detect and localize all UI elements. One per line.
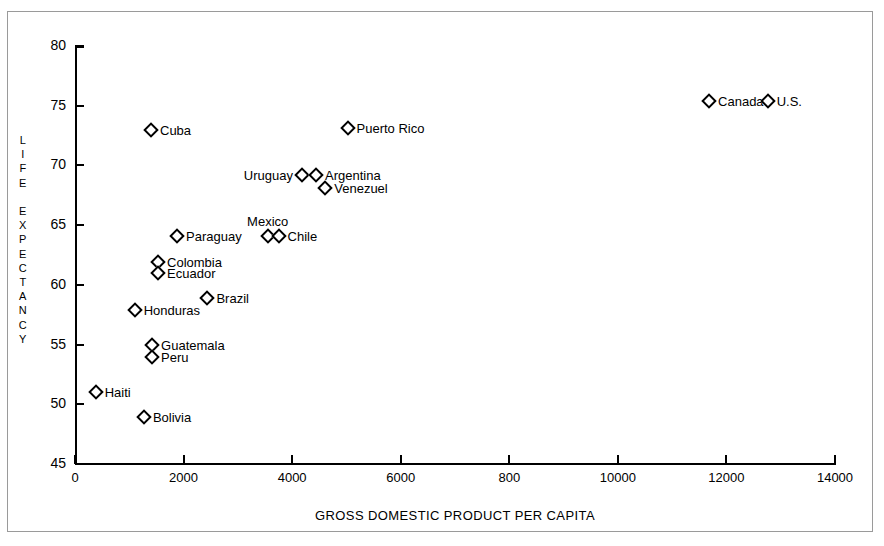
y-axis-title-letter: E [14,247,32,261]
y-axis-tick-label: 45 [26,455,66,471]
data-point-label: Puerto Rico [357,121,425,136]
y-axis-title-letter: F [14,161,32,175]
data-point-label: U.S. [777,93,802,108]
x-axis-tick-label: 14000 [800,470,870,485]
data-point-label: Mexico [247,213,288,228]
y-axis-tick-label: 65 [26,216,66,232]
x-axis-tick-label: 0 [40,470,110,485]
data-point-label: Haiti [105,385,131,400]
data-point-label: Venezuel [334,181,388,196]
data-point-label: Peru [161,349,188,364]
y-axis-title-letter: T [14,275,32,289]
y-axis-tick-label: 75 [26,97,66,113]
y-axis-title-letter: N [14,303,32,317]
x-axis-tick-label: 800 [474,470,544,485]
data-point-label: Cuba [160,122,191,137]
y-axis-title-letter: E [14,176,32,190]
x-axis-title: GROSS DOMESTIC PRODUCT PER CAPITA [75,508,835,523]
y-axis-title: LIFE EXPECTANCY [14,133,32,346]
y-axis-title-letter [14,190,32,204]
y-axis-tick-label: 70 [26,156,66,172]
x-axis-tick-label: 4000 [257,470,327,485]
data-point-label: Uruguay [244,167,293,182]
x-axis-tick-label: 2000 [149,470,219,485]
y-axis-tick-label: 55 [26,336,66,352]
y-axis-title-letter: X [14,218,32,232]
y-axis-title-letter: A [14,289,32,303]
y-axis-tick-label: 60 [26,276,66,292]
y-axis-title-letter: C [14,318,32,332]
y-axis-title-letter: C [14,261,32,275]
data-point-label: Bolivia [153,410,191,425]
data-point-label: Ecuador [167,265,215,280]
data-point-label: Canada [718,93,764,108]
x-axis-tick-label: 12000 [691,470,761,485]
data-point-label: Honduras [144,302,200,317]
y-axis-title-letter: E [14,204,32,218]
y-axis-title-letter: Y [14,332,32,346]
y-axis-title-letter: P [14,232,32,246]
x-axis-tick-label: 10000 [583,470,653,485]
chart-figure: 4550556065707580 02000400060008001000012… [0,0,884,546]
data-point-label: Paraguay [186,228,242,243]
data-point-label: Chile [288,228,318,243]
data-point-label: Brazil [216,290,249,305]
y-axis-tick-label: 80 [26,37,66,53]
x-axis-tick-label: 6000 [366,470,436,485]
y-axis-title-letter: L [14,133,32,147]
y-axis-title-letter: I [14,147,32,161]
y-axis-tick-label: 50 [26,395,66,411]
